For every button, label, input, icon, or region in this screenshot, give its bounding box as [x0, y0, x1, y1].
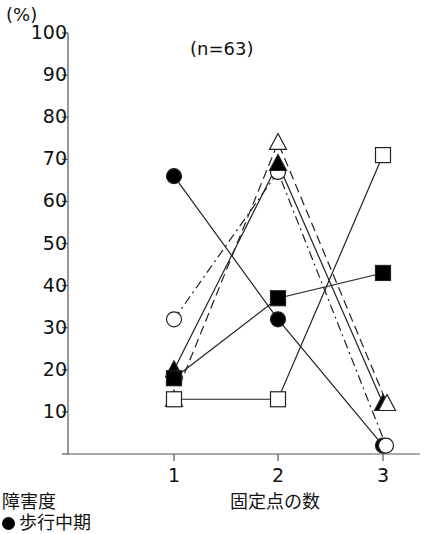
legend-item-label: 歩行中期	[19, 512, 91, 533]
open-square-marker	[167, 392, 182, 407]
y-tick-label: 20	[43, 360, 67, 379]
filled-square-marker	[167, 371, 182, 386]
y-tick-label: 50	[43, 234, 67, 253]
x-axis-title: 固定点の数	[230, 487, 320, 513]
filled-triangle-marker	[270, 155, 287, 171]
filled-circle-icon	[2, 517, 15, 530]
series-line-filled-triangle	[174, 164, 383, 404]
legend-item: 歩行中期	[2, 508, 91, 534]
y-tick-label: 40	[43, 276, 67, 295]
y-tick-label: 80	[43, 107, 67, 126]
x-tick-label: 2	[272, 466, 284, 485]
y-tick-label: 90	[43, 65, 67, 84]
open-triangle-marker	[270, 133, 287, 149]
filled-circle-marker	[167, 169, 182, 184]
x-tick-label: 1	[168, 466, 180, 485]
open-square-marker	[376, 148, 391, 163]
open-circle-marker	[379, 438, 394, 453]
open-circle-marker	[167, 312, 182, 327]
filled-square-marker	[376, 265, 391, 280]
y-tick-label: 70	[43, 149, 67, 168]
filled-square-marker	[271, 291, 286, 306]
x-tick-label: 3	[377, 466, 389, 485]
y-tick-label: 30	[43, 318, 67, 337]
series-line-open-square	[174, 155, 383, 399]
sample-size-annotation: (n=63)	[190, 38, 253, 59]
y-tick-label: 100	[31, 23, 67, 42]
open-square-marker	[271, 392, 286, 407]
filled-circle-marker	[271, 312, 286, 327]
series-line-open-triangle	[174, 142, 387, 403]
y-tick-label: 60	[43, 191, 67, 210]
y-tick-label: 10	[43, 402, 67, 421]
